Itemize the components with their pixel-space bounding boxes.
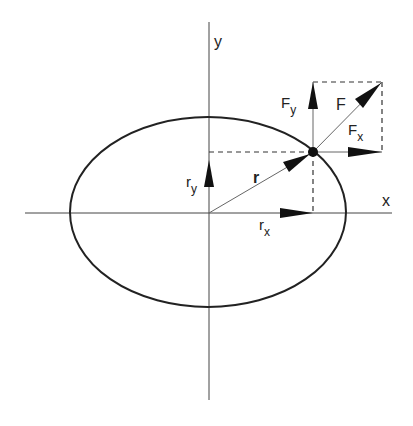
ry-arrow-icon — [204, 160, 214, 187]
r-label: r — [253, 169, 259, 186]
fy-arrow-icon — [308, 82, 318, 109]
rx-label: rx — [259, 216, 270, 239]
dashed-guides — [209, 82, 382, 213]
fx-label: Fx — [348, 121, 363, 144]
f-arrow-icon — [355, 83, 381, 108]
x-axis-label: x — [382, 192, 390, 209]
r-arrow-icon — [283, 154, 310, 172]
point-mass — [308, 147, 318, 157]
f-label: F — [336, 96, 346, 113]
ellipse-force-diagram: y x r rx ry F Fy Fx — [0, 0, 413, 426]
y-axis-label: y — [214, 33, 222, 50]
ry-label: ry — [186, 173, 197, 196]
vector-shafts — [209, 82, 382, 213]
fy-label: Fy — [281, 94, 296, 117]
rx-arrow-icon — [280, 208, 313, 218]
fx-arrow-icon — [348, 147, 382, 157]
